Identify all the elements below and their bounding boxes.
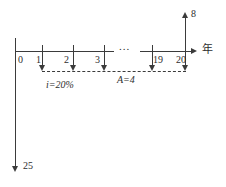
inflow-year20-value-label: 8: [191, 8, 196, 19]
inflow-arrow-year20-head-icon: [182, 12, 188, 18]
tick-label-3: 3: [95, 54, 100, 65]
outflow-year0-value-label: 25: [23, 160, 33, 171]
outflow-arrow-year0-head-icon: [12, 166, 18, 172]
annuity-dashed-line: [42, 71, 186, 72]
annuity-arrow-year2-shaft: [73, 45, 74, 66]
axis-unit-label: 年: [202, 44, 213, 55]
inflow-arrow-year20-shaft: [185, 17, 186, 52]
tick-label-20: 20: [176, 54, 186, 65]
cash-flow-diagram: 年 ... 25 8 0 1 2 3 19 20 i=20% A=4: [0, 0, 226, 187]
timeline-axis-right-segment: [140, 51, 191, 52]
annuity-value-label: A=4: [117, 74, 135, 85]
annuity-arrow-year1-shaft: [42, 45, 43, 66]
tick-label-0: 0: [18, 54, 23, 65]
tick-label-19: 19: [153, 54, 163, 65]
annuity-arrow-year3-shaft: [104, 45, 105, 66]
outflow-arrow-year0-shaft: [15, 38, 16, 167]
axis-right-arrowhead-icon: [191, 48, 197, 54]
tick-label-1: 1: [36, 54, 41, 65]
timeline-axis-left-segment: [15, 51, 114, 52]
interest-rate-label: i=20%: [46, 79, 74, 90]
axis-ellipsis: ...: [119, 41, 130, 52]
tick-label-2: 2: [64, 54, 69, 65]
